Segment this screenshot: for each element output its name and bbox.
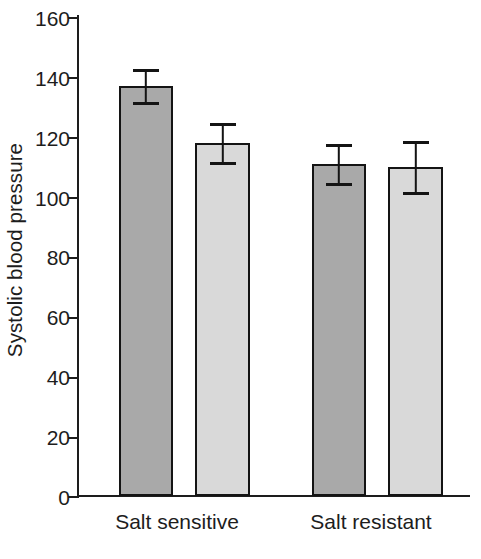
y-tick-20 (68, 437, 77, 439)
errorbar-cap-top (133, 69, 159, 72)
bar-salt-resistant-dark (312, 164, 366, 496)
errorbar-cap-top (326, 144, 352, 147)
x-group-label-salt-sensitive: Salt sensitive (102, 510, 252, 534)
y-tick-100 (68, 197, 77, 199)
y-tick-label-60: 60 (47, 306, 70, 330)
y-axis-title-text: Systolic blood pressure (3, 143, 27, 357)
y-tick-40 (68, 377, 77, 379)
y-tick-label-40: 40 (47, 366, 70, 390)
y-tick-label-0: 0 (58, 486, 70, 510)
bar-salt-sensitive-dark (119, 86, 173, 496)
y-axis-title: Systolic blood pressure (0, 0, 30, 500)
y-tick-label-100: 100 (35, 187, 70, 211)
y-tick-120 (68, 137, 77, 139)
y-tick-160 (68, 17, 77, 19)
plot-area (77, 18, 470, 497)
y-tick-label-80: 80 (47, 246, 70, 270)
y-tick-80 (68, 257, 77, 259)
bar-salt-resistant-light (388, 167, 443, 496)
y-tick-label-140: 140 (35, 67, 70, 91)
errorbar-cap-top (210, 123, 236, 126)
bar-chart: Systolic blood pressure 160 140 120 100 … (0, 0, 481, 559)
y-tick-label-20: 20 (47, 426, 70, 450)
y-tick-labels: 160 140 120 100 80 60 40 20 0 (28, 18, 70, 497)
bar-salt-sensitive-light (195, 143, 250, 496)
y-tick-label-160: 160 (35, 7, 70, 31)
y-tick-label-120: 120 (35, 127, 70, 151)
x-group-label-salt-resistant: Salt resistant (296, 510, 446, 534)
y-axis-line (77, 15, 79, 498)
y-tick-140 (68, 77, 77, 79)
y-tick-0 (68, 496, 77, 498)
y-tick-60 (68, 317, 77, 319)
errorbar-cap-top (403, 141, 429, 144)
